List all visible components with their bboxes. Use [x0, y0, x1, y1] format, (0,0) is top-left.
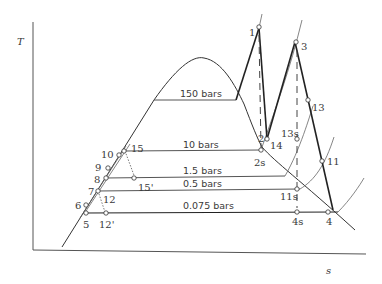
point-12p: [104, 211, 108, 215]
label-8: 8: [94, 174, 100, 185]
label-4s: 4s: [292, 216, 304, 227]
point-15: [122, 149, 126, 153]
label-15: 15: [131, 143, 144, 154]
y-axis-label: T: [17, 36, 25, 47]
label-12: 12: [103, 194, 116, 205]
point-9: [106, 166, 110, 170]
label-4: 4: [326, 216, 332, 227]
label-14: 14: [270, 140, 283, 151]
point-8: [104, 176, 108, 180]
isobar-10: [125, 150, 261, 151]
point-13: [306, 98, 310, 102]
label-13s: 13s: [281, 128, 299, 139]
point-7: [96, 189, 100, 193]
point-15p: [132, 176, 136, 180]
label-11s: 11s: [280, 191, 298, 202]
process-2-to-3: [267, 42, 295, 139]
x-axis: [33, 250, 366, 254]
point-5: [84, 211, 88, 215]
label-7: 7: [88, 186, 94, 197]
isobar-0-5: [97, 189, 300, 191]
point-6: [84, 203, 88, 207]
label-10: 10: [101, 149, 114, 160]
label-11: 11: [327, 156, 340, 167]
x-axis-label: s: [326, 265, 331, 276]
label-12p: 12': [99, 219, 114, 230]
isobar-0-075: [84, 212, 338, 213]
isobar-label-150: 150 bars: [180, 88, 222, 99]
process-3-to-4: [295, 42, 333, 210]
point-1: [257, 25, 261, 29]
label-3: 3: [301, 41, 307, 52]
isobar-label-10: 10 bars: [183, 139, 219, 150]
point-11: [320, 159, 324, 163]
point-2s: [259, 148, 263, 152]
isobar-1-5-superheat: [285, 106, 313, 176]
label-2s: 2s: [254, 157, 266, 168]
point-10: [117, 153, 121, 157]
throttle-15-15p: [125, 151, 135, 178]
label-2: 2: [258, 133, 264, 144]
isobar-label-1-5: 1.5 bars: [183, 165, 222, 176]
point-2: [265, 137, 269, 141]
isobar-label-0-075: 0.075 bars: [183, 200, 234, 211]
label-13: 13: [312, 102, 325, 113]
cycle-path: [236, 28, 333, 210]
label-1: 1: [249, 27, 255, 38]
point-4s: [295, 210, 299, 214]
point-3: [294, 40, 298, 44]
t-s-diagram: T s 150 bars 10 bars 1.5 bars 0.5 bars 0…: [0, 0, 382, 284]
label-5: 5: [83, 219, 89, 230]
label-15p: 15': [138, 182, 153, 193]
isobar-0-075-superheat: [338, 178, 364, 212]
point-4: [326, 210, 330, 214]
label-6: 6: [75, 200, 81, 211]
label-9: 9: [95, 162, 101, 173]
process-heating-to-1: [236, 28, 259, 100]
isobar-label-0-5: 0.5 bars: [183, 178, 222, 189]
